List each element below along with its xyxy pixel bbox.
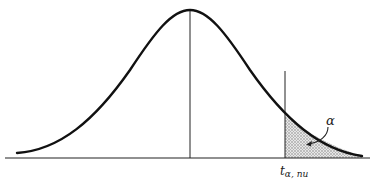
critical-value-label: tα, nu [280,164,308,179]
t-distribution-diagram: α tα, nu [0,0,381,183]
critical-value-subscript: α, nu [285,169,309,179]
alpha-label: α [326,113,335,128]
